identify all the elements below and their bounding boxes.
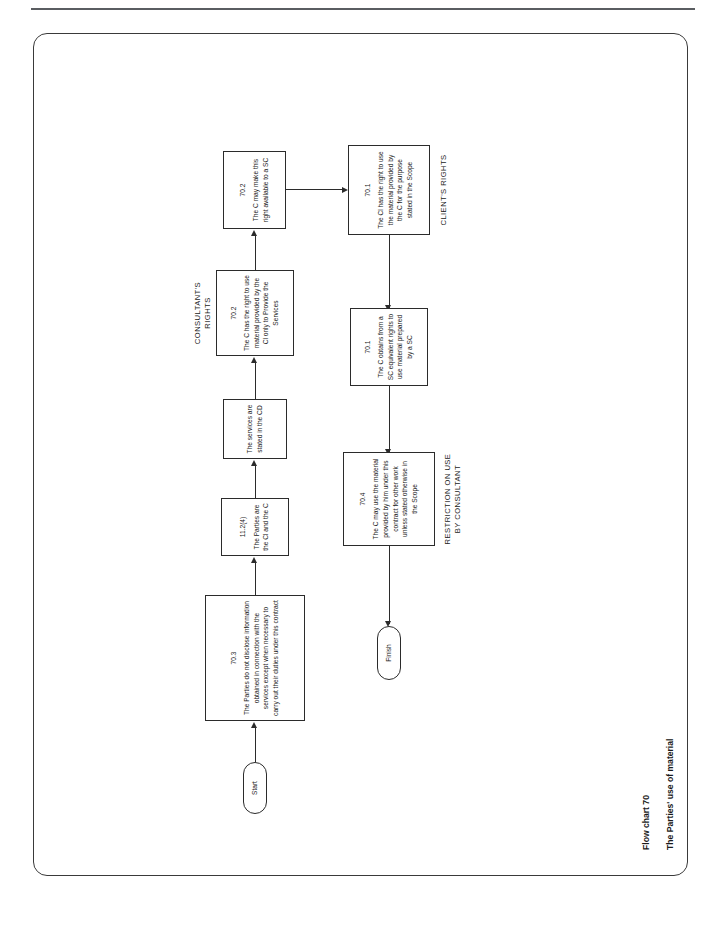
- node-finish-label: Finish: [384, 644, 394, 662]
- edge-services-to-70-2-consultant: [255, 361, 256, 399]
- arrowhead-70-2-consultant-to-70-2-sc: [251, 230, 257, 236]
- node-70-2-consultants-rights-text: The C has the right to use material prov…: [242, 275, 280, 351]
- diagram-area: Start 70.3 The Parties do not disclose i…: [33, 33, 688, 876]
- node-services-stated-in-cd[interactable]: The services are stated in the CD: [223, 399, 287, 459]
- node-70-2-right-available-to-sc[interactable]: 70.2 The C may make this right available…: [223, 151, 286, 229]
- node-70-2-consultants-rights[interactable]: 70.2 The C has the right to use material…: [216, 270, 294, 356]
- arrowhead-70-3-to-11-2-4: [251, 557, 257, 563]
- edge-70-4-to-finish: [389, 546, 390, 624]
- edge-11-2-4-to-services: [255, 464, 256, 498]
- node-70-4-clause: 70.4: [359, 493, 368, 506]
- edge-70-2-consultant-to-70-2-sc: [255, 234, 256, 270]
- node-11-2-4[interactable]: 11.2(4) The Parties are the Cl and the C: [221, 498, 289, 556]
- edge-70-1-sc-to-70-4: [389, 386, 390, 452]
- node-start[interactable]: Start: [243, 762, 267, 814]
- figure-caption-line-1: Flow chart 70: [641, 530, 653, 850]
- node-services-stated-in-cd-text: The services are stated in the CD: [245, 404, 264, 454]
- edge-70-1-client-to-70-1-sc: [389, 235, 390, 308]
- node-70-1-sc-equivalent-rights[interactable]: 70.1 The C obtains from a SC equivalent …: [350, 308, 428, 386]
- header-rule: [31, 8, 695, 10]
- node-70-4-text: The C may use the material provided by h…: [371, 457, 419, 541]
- figure-caption: Flow chart 70 The Parties' use of materi…: [629, 530, 688, 850]
- node-70-3[interactable]: 70.3 The Parties do not disclose informa…: [205, 595, 305, 721]
- arrowhead-services-to-70-2-consultant: [251, 357, 257, 363]
- node-70-1-sc-equivalent-rights-clause: 70.1: [364, 341, 373, 354]
- section-label-clients-rights: CLIENT'S RIGHTS: [439, 145, 449, 235]
- node-70-4[interactable]: 70.4 The C may use the material provided…: [343, 452, 435, 546]
- node-70-2-consultants-rights-clause: 70.2: [230, 307, 239, 320]
- node-70-1-sc-equivalent-rights-text: The C obtains from a SC equivalent right…: [376, 313, 414, 381]
- node-70-1-clients-rights-clause: 70.1: [364, 184, 373, 197]
- figure-caption-line-2: The Parties' use of material: [665, 530, 677, 850]
- arrowhead-start-to-70-3: [251, 722, 257, 728]
- section-label-restriction-on-use: RESTRICTION ON USE BY CONSULTANT: [443, 444, 464, 554]
- edge-70-2-sc-to-70-1-client: [286, 189, 346, 190]
- edge-start-to-70-3: [255, 726, 256, 762]
- node-70-2-right-available-to-sc-text: The C may make this right available to a…: [251, 156, 270, 224]
- edge-70-3-to-11-2-4: [255, 561, 256, 595]
- node-70-3-text: The Parties do not disclose information …: [242, 600, 280, 716]
- node-70-1-clients-rights[interactable]: 70.1 The Cl has the right to use the mat…: [348, 145, 430, 235]
- flowchart-canvas: Start 70.3 The Parties do not disclose i…: [33, 33, 688, 876]
- node-70-1-clients-rights-text: The Cl has the right to use the material…: [376, 150, 414, 230]
- node-70-3-clause: 70.3: [230, 652, 239, 665]
- node-11-2-4-clause: 11.2(4): [239, 517, 248, 537]
- node-finish[interactable]: Finish: [377, 626, 401, 680]
- node-70-2-right-available-to-sc-clause: 70.2: [239, 184, 248, 197]
- arrowhead-11-2-4-to-services: [251, 460, 257, 466]
- node-start-label: Start: [250, 781, 260, 795]
- node-11-2-4-text: The Parties are the Cl and the C: [252, 503, 271, 551]
- section-label-consultants-rights: CONSULTANT'S RIGHTS: [193, 270, 214, 356]
